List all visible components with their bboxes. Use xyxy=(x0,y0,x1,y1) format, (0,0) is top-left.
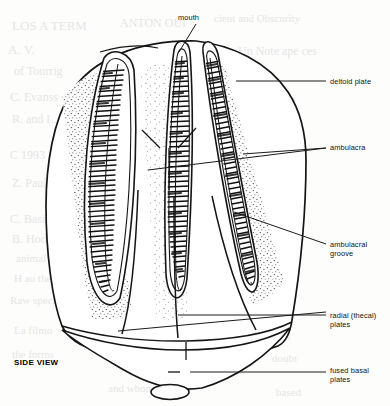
side-view-label: SIDE VIEW xyxy=(14,358,59,367)
label-basal: fused basal plates xyxy=(330,366,369,384)
label-ambulacra: ambulacra xyxy=(330,143,365,152)
label-deltoid: deltoid plate xyxy=(330,77,371,86)
label-groove: ambulacral groove xyxy=(330,240,367,258)
label-mouth: mouth xyxy=(178,13,199,22)
stem-attachment-oval xyxy=(151,385,189,400)
blastoid-diagram xyxy=(0,0,390,406)
label-radial: radial (thecal) plates xyxy=(330,311,376,329)
